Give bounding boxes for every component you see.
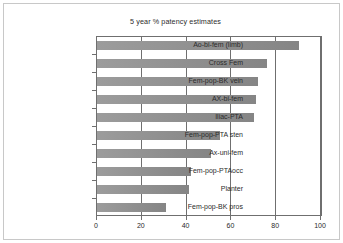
x-tick-mark [186,216,187,220]
y-tick-mark [92,126,96,127]
x-tick-mark [141,216,142,220]
bar [97,149,211,158]
y-tick-mark [92,72,96,73]
x-tick-label: 20 [137,222,145,229]
category-label: Fem-pop-BK vein [189,77,243,84]
category-label: Cross Fem [209,59,243,66]
x-tick-label: 60 [226,222,234,229]
x-tick-label: 100 [314,222,326,229]
y-tick-mark [92,90,96,91]
x-tick-mark [230,216,231,220]
y-tick-mark [92,108,96,109]
x-tick-mark [320,216,321,220]
x-tick-mark [96,216,97,220]
y-tick-mark [92,54,96,55]
bar [97,203,166,212]
gridline [275,36,276,216]
category-label: AX-bi-fem [212,95,243,102]
category-label: Fem-pop-PTAocc [189,167,243,174]
x-tick-label: 80 [271,222,279,229]
x-tick-mark [275,216,276,220]
x-tick-label: 40 [182,222,190,229]
category-label: Fem-pop-PTA sten [185,131,243,138]
bar [97,185,189,194]
y-tick-mark [92,180,96,181]
bar [97,167,191,176]
category-label: Planter [221,185,243,192]
chart-frame: 5 year % patency estimates 020406080100 … [3,3,340,240]
chart-title: 5 year % patency estimates [4,17,343,26]
category-label: Ax-uni-fem [209,149,243,156]
category-label: Fem-pop-BK pros [188,203,243,210]
gridline [320,36,321,216]
category-label: Iliac-PTA [215,113,243,120]
y-tick-mark [92,144,96,145]
x-tick-label: 0 [94,222,98,229]
y-tick-mark [92,198,96,199]
y-tick-mark [92,162,96,163]
category-label: Ao-bi-fem (limb) [193,41,243,48]
